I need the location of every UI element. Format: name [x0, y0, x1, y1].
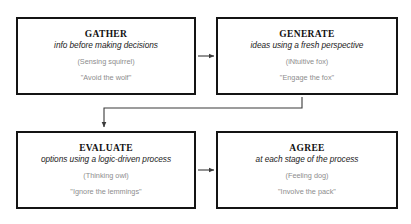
- node-evaluate-motto: "Ignore the lemmings": [70, 188, 141, 197]
- connector-generate-to-evaluate: [104, 97, 302, 127]
- node-generate[interactable]: GENERATE ideas using a fresh perspective…: [216, 17, 398, 95]
- process-flow-diagram: GATHER info before making decisions (Sen…: [0, 0, 411, 224]
- node-gather-subtitle: info before making decisions: [54, 41, 158, 51]
- node-gather-title: GATHER: [85, 29, 128, 40]
- node-evaluate[interactable]: EVALUATE options using a logic-driven pr…: [16, 131, 196, 209]
- node-evaluate-title: EVALUATE: [79, 143, 133, 154]
- node-generate-motto: "Engage the fox": [280, 74, 334, 83]
- node-generate-type-label: (iNtuitive fox): [286, 58, 329, 67]
- node-generate-title: GENERATE: [279, 29, 334, 40]
- node-evaluate-type-label: (Thinking owl): [83, 172, 128, 181]
- node-agree-type-label: (Feeling dog): [286, 172, 329, 181]
- node-agree-motto: "Involve the pack": [278, 188, 336, 197]
- node-agree[interactable]: AGREE at each stage of the process (Feel…: [216, 131, 398, 209]
- node-gather-motto: "Avoid the wolf": [81, 74, 131, 83]
- node-gather[interactable]: GATHER info before making decisions (Sen…: [16, 17, 196, 95]
- node-gather-type-label: (Sensing squirrel): [77, 58, 134, 67]
- node-agree-subtitle: at each stage of the process: [256, 155, 359, 165]
- node-agree-title: AGREE: [289, 143, 325, 154]
- node-evaluate-subtitle: options using a logic-driven process: [41, 155, 171, 165]
- node-generate-subtitle: ideas using a fresh perspective: [251, 41, 364, 51]
